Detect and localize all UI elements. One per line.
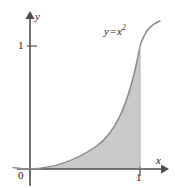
y-axis-tick-label-1: 1 (18, 40, 24, 51)
y-axis-arrow-icon (25, 11, 34, 19)
x-axis-arrow-icon (161, 164, 169, 173)
curve-equation-equals: = (109, 25, 117, 37)
origin-tick-label: 0 (18, 170, 24, 181)
x-axis-tick-label-1: 1 (136, 172, 142, 183)
curve-equation-label: y=x2 (104, 24, 126, 37)
plot-canvas (0, 0, 175, 188)
figure-container: y x 0 1 1 y=x2 (0, 0, 175, 188)
x-axis-label: x (156, 155, 161, 166)
y-axis-label: y (35, 11, 40, 22)
curve-equation-exponent: 2 (122, 23, 126, 32)
